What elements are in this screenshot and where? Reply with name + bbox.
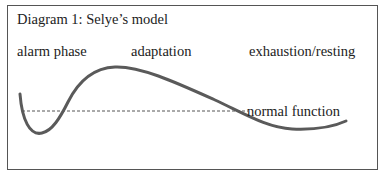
- stress-response-curve: [0, 0, 385, 176]
- baseline-label: normal function: [247, 104, 340, 119]
- response-curve-line: [20, 67, 346, 133]
